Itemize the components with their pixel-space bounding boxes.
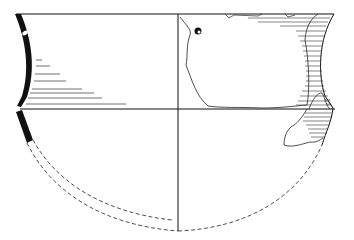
sherd-outline-upper <box>180 14 318 108</box>
reconstruction-outer-right <box>178 145 322 231</box>
section-hatching <box>26 60 126 104</box>
perforation-highlight <box>198 31 201 34</box>
rim-broken-edge <box>225 14 295 18</box>
vessel-svg <box>0 0 354 240</box>
exterior-hatching-upper <box>248 18 332 105</box>
pottery-drawing <box>0 0 354 240</box>
section-wall-lower <box>16 110 33 143</box>
section-wall-upper <box>15 14 32 107</box>
exterior-wall-outline <box>321 14 334 145</box>
